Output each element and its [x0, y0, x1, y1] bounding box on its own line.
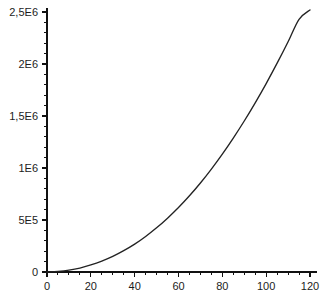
y-tick-label: 2,5E6 [9, 6, 38, 18]
x-tick-label: 120 [301, 280, 319, 292]
y-axis-tick-labels: 05E51E61,5E62E62,5E6 [9, 6, 38, 278]
y-tick-label: 1E6 [18, 162, 38, 174]
x-tick-label: 40 [129, 280, 141, 292]
y-tick-label: 2E6 [18, 58, 38, 70]
x-tick-label: 80 [216, 280, 228, 292]
y-tick-label: 1,5E6 [9, 110, 38, 122]
data-series-curve [47, 10, 310, 272]
chart-container: 05E51E61,5E62E62,5E6 020406080100120 [0, 0, 321, 303]
x-tick-label: 20 [85, 280, 97, 292]
y-tick-label: 5E5 [18, 214, 38, 226]
plot-area: 05E51E61,5E62E62,5E6 020406080100120 [0, 0, 321, 303]
x-tick-label: 0 [44, 280, 50, 292]
y-axis-major-ticks [42, 12, 47, 272]
x-axis-tick-labels: 020406080100120 [44, 280, 319, 292]
y-tick-label: 0 [32, 266, 38, 278]
x-axis-major-ticks [47, 272, 310, 277]
x-tick-label: 60 [172, 280, 184, 292]
x-tick-label: 100 [257, 280, 275, 292]
